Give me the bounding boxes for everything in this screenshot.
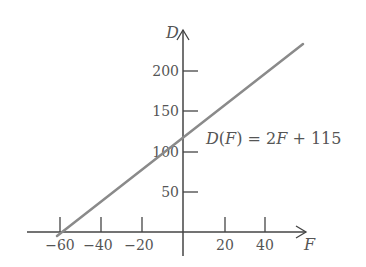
equation-label: D(F) = 2F + 115 bbox=[205, 129, 341, 148]
y-axis-label: D bbox=[165, 23, 179, 42]
linear-function-chart: F D −60 −40 −20 20 40 200 150 100 50 D(F… bbox=[0, 0, 366, 267]
x-ticks bbox=[60, 217, 265, 232]
x-tick-label: −40 bbox=[83, 237, 113, 253]
x-tick-label: 20 bbox=[216, 237, 234, 253]
y-tick-label: 150 bbox=[152, 103, 179, 119]
x-tick-label: −20 bbox=[124, 237, 154, 253]
y-tick-label: 50 bbox=[161, 184, 179, 200]
x-tick-label: −60 bbox=[45, 237, 75, 253]
x-tick-label: 40 bbox=[256, 237, 274, 253]
y-tick-label: 200 bbox=[152, 63, 179, 79]
x-axis-label: F bbox=[303, 235, 316, 254]
